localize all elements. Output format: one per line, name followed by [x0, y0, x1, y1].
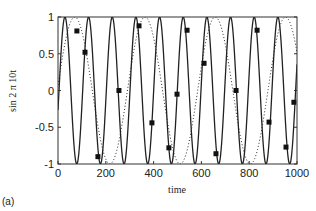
x-axis-title: time: [168, 184, 186, 195]
x-tick-label: 400: [144, 167, 162, 179]
sample-marker: [234, 88, 239, 93]
sample-marker: [175, 92, 180, 97]
chart: 10.50-0.5-1 02004006008001000 time sin 2…: [0, 0, 316, 211]
sample-marker: [284, 145, 289, 150]
sample-marker: [291, 100, 296, 105]
y-tick-label: 0.5: [39, 48, 54, 60]
y-tick-label: -0.5: [35, 121, 54, 133]
sample-marker: [267, 120, 272, 125]
y-tick-label: 0: [48, 85, 54, 97]
x-tick-label: 0: [55, 167, 61, 179]
sample-marker: [213, 151, 218, 156]
sample-marker: [166, 145, 171, 150]
sample-marker: [137, 23, 142, 28]
sample-marker: [202, 61, 207, 66]
x-tick-label: 1000: [285, 167, 309, 179]
plot-area: [58, 17, 297, 164]
sample-marker: [185, 28, 190, 33]
sample-marker: [74, 28, 79, 33]
x-tick-label: 800: [240, 167, 258, 179]
x-tick-label: 600: [192, 167, 210, 179]
x-tick-label: 200: [97, 167, 115, 179]
sample-marker: [116, 88, 121, 93]
sample-marker: [95, 154, 100, 159]
y-tick-label: 1: [48, 11, 54, 23]
sample-marker: [149, 120, 154, 125]
y-axis-title: sin 2 π 10t: [7, 70, 18, 112]
panel-label: (a): [2, 196, 14, 207]
signal-line: [58, 17, 297, 164]
sample-marker: [255, 28, 260, 33]
sample-marker: [83, 50, 88, 55]
y-tick-label: -1: [44, 158, 54, 170]
